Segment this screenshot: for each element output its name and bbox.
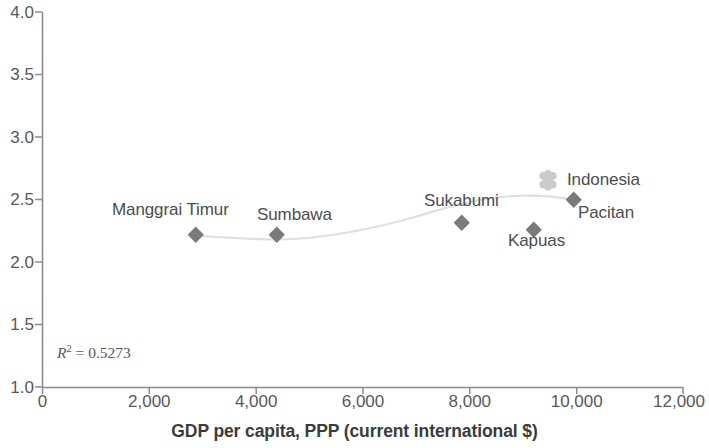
y-tick-label-4-0: 4.0: [0, 3, 34, 23]
x-axis-title: GDP per capita, PPP (current internation…: [0, 421, 709, 442]
point-label-kapuas: Kapuas: [508, 231, 565, 251]
x-tick-label-8000: 8,000: [449, 392, 492, 412]
marker-manggrai-timur: [188, 227, 204, 243]
y-tick-label-3-5: 3.5: [0, 65, 34, 85]
y-tick-label-2-5: 2.5: [0, 190, 34, 210]
r-squared-equals: =: [72, 344, 89, 361]
x-tick-label-0: 0: [38, 392, 47, 412]
point-label-sumbawa: Sumbawa: [257, 205, 332, 225]
x-tick-label-4000: 4,000: [235, 392, 278, 412]
point-label-indonesia: Indonesia: [567, 170, 640, 190]
y-axis-ticks: [35, 12, 42, 387]
point-label-sukabumi: Sukabumi: [424, 191, 499, 211]
y-tick-label-2-0: 2.0: [0, 253, 34, 273]
y-tick-label-1-0: 1.0: [0, 378, 34, 398]
x-tick-label-12000: 12,000: [653, 392, 705, 412]
r-squared-value: 0.5273: [88, 344, 131, 361]
x-tick-label-6000: 6,000: [342, 392, 385, 412]
x-tick-label-10000: 10,000: [551, 392, 603, 412]
point-label-manggrai-timur: Manggrai Timur: [112, 200, 229, 220]
point-label-pacitan: Pacitan: [578, 203, 634, 223]
y-tick-label-1-5: 1.5: [0, 315, 34, 335]
plot-area: [0, 0, 709, 448]
x-tick-label-2000: 2,000: [128, 392, 171, 412]
marker-sukabumi: [454, 215, 470, 231]
r-squared-annotation: R2 = 0.5273: [57, 343, 131, 362]
marker-indonesia: [539, 170, 556, 191]
scatter-chart: 4.0 3.5 3.0 2.5 2.0 1.5 1.0 0 2,000 4,00…: [0, 0, 709, 448]
y-tick-label-3-0: 3.0: [0, 128, 34, 148]
